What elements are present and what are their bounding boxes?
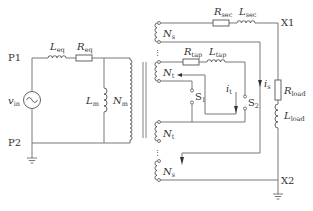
circuit-diagram: P1 P2 vin Leq Req Lm Nm [0,0,313,211]
node-p2-label: P2 [8,137,21,148]
resistor-req-icon [76,55,92,61]
terminal [158,80,161,83]
primary-circuit: P1 P2 vin Leq Req Lm Nm [8,41,132,163]
rsec-label: Rsec [213,6,233,19]
ltap-label: Ltap [208,46,226,59]
secondary-circuit: Ns ⋮ Nt Nt ⋮ Ns Rsec Lsec X1 Rload Lload [154,6,306,199]
resistor-rsec-icon [213,20,229,26]
rtap-label: Rtap [183,46,202,59]
ellipsis-dots: ⋮ [154,49,161,57]
node-p1-label: P1 [8,52,21,63]
is-label: is [264,78,271,91]
winding-nt-upper-icon [155,62,157,81]
winding-nt-lower-icon [155,122,157,141]
inductor-lload-icon [275,104,278,128]
switch-s2 [244,95,247,122]
inductor-ltap-icon [207,60,225,62]
nm-label: Nm [112,95,128,108]
ns-bottom-label: Ns [162,166,175,179]
req-label: Req [76,41,93,54]
terminal [158,41,161,44]
nt-lower-label: Nt [162,128,175,141]
transformer-core [143,62,146,138]
node-x1-label: X1 [281,17,294,28]
ac-source-icon [24,92,41,109]
is-current-path [182,120,260,160]
resistor-rtap-icon [183,59,199,65]
terminal [158,61,161,64]
s1-label: S1 [195,91,206,104]
inductor-lsec-icon [237,21,255,23]
arrow-down-icon [258,80,262,87]
s2-label: S2 [248,97,259,110]
node-x2-label: X2 [281,175,294,186]
leq-label: Leq [49,41,65,54]
ns-top-label: Ns [162,28,175,41]
lm-label: Lm [85,95,99,108]
ground-icon-primary [27,143,37,163]
winding-ns-bottom-icon [155,161,157,180]
it-label: it [226,83,232,96]
terminal [158,179,161,182]
source-label: vin [8,95,20,108]
inductor-leq-icon [48,56,66,58]
arrow-left-icon [177,73,182,77]
lsec-label: Lsec [238,6,257,19]
resistor-rload-icon [275,80,281,100]
inductor-lm-icon [104,88,107,112]
primary-winding-nm-icon [130,58,132,143]
ellipsis-dots: ⋮ [154,149,161,157]
arrow-down-icon [180,157,184,165]
arrow-down-icon [234,106,238,113]
nt-upper-label: Nt [162,67,175,80]
s1-wire-top [161,81,193,89]
winding-ns-top-icon [155,23,157,42]
switch-s1 [191,89,194,122]
rload-label: Rload [283,85,306,98]
terminal [158,22,161,25]
lload-label: Lload [283,110,305,123]
terminal [158,140,161,143]
terminal [158,160,161,163]
terminal [158,121,161,124]
